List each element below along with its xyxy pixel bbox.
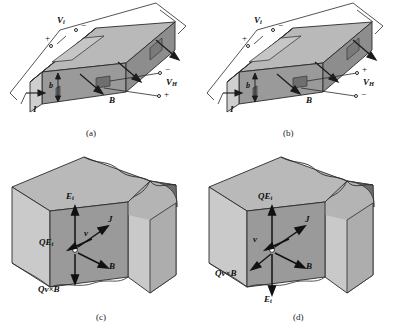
panel-a-vh-minus-sign: − [165,64,170,74]
panel-b-vi-minus-terminal [271,28,275,32]
panel-c-graphic [0,145,198,334]
panel-c-lorentz-label: Qv×B [38,285,60,294]
panel-a: − + Vi − + VH I B b (a) [0,0,198,145]
panel-a-thickness-label: b [49,82,53,90]
panel-c-qet-text: QE [39,237,52,247]
panel-a-vh-label: VH [166,78,177,88]
panel-d-current-density-label: J [305,215,310,224]
panel-d: QEt Et v J B Qv×B (d) [197,145,396,334]
panel-b-caption: (b) [283,128,294,138]
panel-d-qet-subscript: t [271,194,273,201]
panel-a-vi-minus-sign: − [81,20,86,30]
panel-b-vi-label: Vi [254,16,262,26]
panel-c-et-label: Et [66,192,74,202]
panel-c-et-subscript: t [72,194,74,201]
panel-a-vh-subscript: H [172,80,177,87]
panel-c-field-label: B [109,262,115,271]
panel-b-thickness-label: b [246,82,250,90]
panel-b-field-label: B [306,96,312,105]
panel-a-caption: (a) [86,128,96,138]
panel-c-qet-subscript: t [52,240,54,247]
panel-d-qet-text: QE [258,191,271,201]
panel-d-caption: (d) [293,312,304,322]
panel-a-vi-label: Vi [57,16,65,26]
panel-b-vi-plus-terminal [246,44,250,48]
panel-b-vh-minus-terminal [354,94,358,98]
panel-a-current-label: I [33,105,37,114]
panel-c-velocity-label: v [84,229,88,238]
panel-a-vh-plus-terminal [157,94,161,98]
panel-a-vi-plus-sign: + [45,33,50,43]
panel-b-vi-subscript: i [260,18,262,25]
panel-b: − + Vi + − VH I B b (b) [197,0,396,145]
panel-c-current-density-label: J [108,215,113,224]
panel-a-vh-plus-sign: + [164,89,169,99]
panel-b-current-label: I [230,105,234,114]
panel-d-velocity-label: v [253,235,257,244]
panel-a-vi-plus-terminal [49,44,53,48]
panel-b-vh-plus-sign: + [362,64,367,74]
panel-c-qet-label: QEt [39,238,53,248]
panel-d-field-label: B [306,262,312,271]
panel-b-vi-plus-sign: + [242,33,247,43]
panel-a-vi-subscript: i [63,18,65,25]
panel-d-et-subscript: t [270,297,272,304]
panel-d-lorentz-label: Qv×B [215,269,237,278]
panel-b-vh-subscript: H [369,80,374,87]
panel-d-qet-label: QEt [258,192,272,202]
panel-a-vi-minus-terminal [74,28,78,32]
panel-b-vh-minus-sign: − [361,89,366,99]
panel-b-vh-label: VH [363,78,374,88]
panel-c: Et QEt v J B Qv×B (c) [0,145,198,334]
panel-a-field-label: B [109,96,115,105]
panel-c-caption: (c) [96,312,106,322]
panel-a-vh-minus-terminal [158,71,162,75]
panel-b-vh-plus-terminal [355,71,359,75]
panel-d-graphic [197,145,396,334]
panel-b-vi-minus-sign: − [278,20,283,30]
panel-d-et-label: Et [264,295,272,305]
